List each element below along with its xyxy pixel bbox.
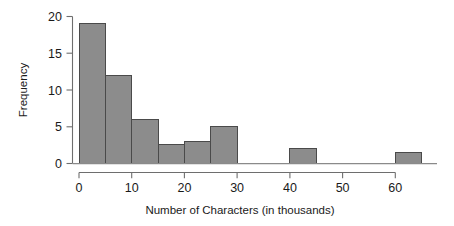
x-tick-label-20: 20: [177, 181, 191, 195]
bar-bin-10-15: [132, 119, 158, 163]
y-tick-label-20: 20: [48, 10, 62, 24]
histogram-figure: 20 15 10 5 0 Frequency: [0, 0, 454, 226]
bar-bin-15-20: [158, 145, 184, 164]
histogram-bars: [79, 24, 422, 164]
x-axis-tick-labels: 0 10 20 30 40 50 60: [76, 181, 403, 195]
histogram-svg: 20 15 10 5 0 Frequency: [0, 0, 454, 226]
x-tick-label-60: 60: [388, 181, 402, 195]
x-tick-label-50: 50: [336, 181, 350, 195]
y-axis-ticks: [67, 17, 73, 164]
bar-bin-40-45: [290, 149, 316, 164]
x-tick-label-10: 10: [125, 181, 139, 195]
x-tick-label-30: 30: [230, 181, 244, 195]
x-tick-label-40: 40: [283, 181, 297, 195]
y-axis-title: Frequency: [17, 63, 29, 118]
y-tick-label-15: 15: [48, 47, 62, 61]
bar-bin-25-30: [211, 127, 237, 164]
y-tick-label-0: 0: [55, 157, 62, 171]
bar-bin-5-10: [105, 75, 131, 163]
x-tick-label-0: 0: [76, 181, 83, 195]
y-tick-label-10: 10: [48, 84, 62, 98]
bar-bin-20-25: [185, 142, 211, 164]
y-axis-tick-labels: 20 15 10 5 0: [48, 10, 62, 171]
x-axis-ticks: [79, 173, 395, 179]
bar-bin-60-65: [395, 152, 421, 163]
x-axis-title: Number of Characters (in thousands): [145, 204, 334, 216]
y-tick-label-5: 5: [55, 120, 62, 134]
bar-bin-0-5: [79, 24, 105, 164]
